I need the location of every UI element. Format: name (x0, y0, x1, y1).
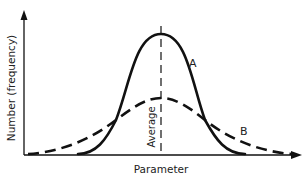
y-axis-arrow-icon (21, 10, 28, 20)
x-axis (24, 151, 302, 159)
curve-b-label: B (240, 125, 248, 138)
x-axis-arrow-icon (291, 151, 302, 159)
distribution-chart: Number (frequency) Parameter Average A B (0, 0, 308, 179)
average-label: Average (146, 106, 157, 147)
y-axis (21, 10, 28, 155)
chart-canvas: Number (frequency) Parameter Average A B (0, 0, 308, 179)
curve-a-label: A (189, 57, 197, 70)
x-axis-label: Parameter (134, 163, 189, 175)
curve-b (28, 98, 292, 154)
y-axis-label: Number (frequency) (5, 35, 17, 141)
